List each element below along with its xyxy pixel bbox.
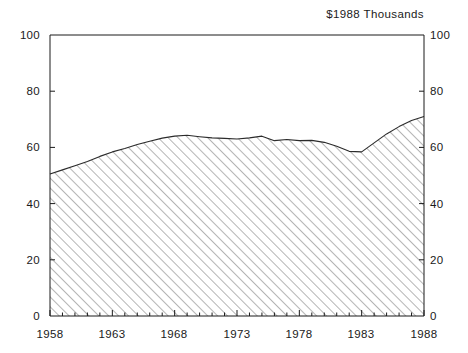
y-left-tick-40: 40 bbox=[2, 198, 40, 210]
x-tick-1973: 1973 bbox=[207, 328, 267, 340]
y-right-tick-80: 80 bbox=[430, 85, 468, 97]
y-left-tick-100: 100 bbox=[2, 29, 40, 41]
y-right-tick-20: 20 bbox=[430, 254, 468, 266]
x-tick-1968: 1968 bbox=[144, 328, 204, 340]
y-right-tick-0: 0 bbox=[430, 310, 468, 322]
y-left-tick-80: 80 bbox=[2, 85, 40, 97]
y-left-tick-0: 0 bbox=[2, 310, 40, 322]
area-fill bbox=[50, 116, 424, 316]
chart-plot-area bbox=[0, 0, 468, 353]
x-tick-1988: 1988 bbox=[394, 328, 454, 340]
x-tick-1963: 1963 bbox=[82, 328, 142, 340]
chart-container: $1988 Thousands 100 80 60 40 20 0 100 80… bbox=[0, 0, 468, 353]
x-tick-1983: 1983 bbox=[331, 328, 391, 340]
y-right-tick-100: 100 bbox=[430, 29, 468, 41]
x-tick-1978: 1978 bbox=[269, 328, 329, 340]
y-left-tick-60: 60 bbox=[2, 141, 40, 153]
y-left-tick-20: 20 bbox=[2, 254, 40, 266]
y-right-tick-40: 40 bbox=[430, 198, 468, 210]
x-tick-1958: 1958 bbox=[20, 328, 80, 340]
y-right-tick-60: 60 bbox=[430, 141, 468, 153]
